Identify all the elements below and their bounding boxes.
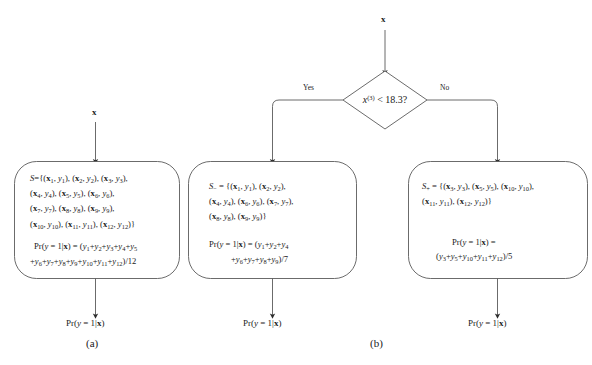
panel-b-right-set-line-1: S+ = {(x3, y3), (x5, y5), (x10, y10), [422,180,534,195]
figure-caption [40,357,560,365]
panel-a-formula-line-1: Pr(y = 1|x) = (y1+y2+y3+y4+y5 [30,240,137,255]
panel-b-right-box-content: S+ = {(x3, y3), (x5, y5), (x10, y10), (x… [422,180,534,265]
panel-b-left-formula-line-2: +y6+y7+y8+y9)/7 [209,253,293,268]
yes-branch-label: Yes [303,84,314,92]
panel-a-formula-line-2: +y6+y7+y8+y9+y10+y11+y12)/12 [30,255,137,270]
decision-superscript: (3) [367,94,374,101]
panel-b-left-set-line-2: (x4, y4), (x6, y6), (x7, y7), [209,195,293,210]
decision-condition-text: x(3) < 18.3? [345,94,425,105]
panel-b-input-label: x [381,15,386,24]
panel-a-set-line-2: (x4, y4), (x5, y5), (x6, y6), [30,187,137,202]
yes-branch-line [273,100,344,162]
no-branch-line [427,100,498,162]
panel-b-right-output-label: Pr(y = 1|x) [468,318,506,328]
panel-b-left-box-content: S− = {(x1, y1), (x2, y2), (x4, y4), (x6,… [209,180,293,268]
decision-question-mark: ? [403,94,407,105]
panel-b-left-set-line-3: (x8, y8), (x9, y9)} [209,210,293,225]
panel-a-set-line-4: (x10, y10), (x11, y11), (x12, y12)} [30,218,137,233]
panel-a-set-line-3: (x7, y7), (x8, y8), (x9, y9), [30,202,137,217]
figure-canvas: x x Yes No x(3) < 18.3? S={(x1, y1), (x2… [0,0,592,365]
no-branch-label: No [440,84,449,92]
panel-a-box-content: S={(x1, y1), (x2, y2), (x3, y3), (x4, y4… [30,172,137,270]
decision-operator: < [377,94,383,105]
panel-a-label: (a) [86,337,98,349]
panel-a-set-line-1: S={(x1, y1), (x2, y2), (x3, y3), [30,172,137,187]
decision-threshold: 18.3 [385,94,403,105]
panel-b-left-set-line-1: S− = {(x1, y1), (x2, y2), [209,180,293,195]
panel-b-right-formula-line-1: Pr(y = 1|x) = [422,236,534,249]
panel-a-input-label: x [92,108,97,117]
panel-b-left-output-label: Pr(y = 1|x) [243,318,281,328]
panel-b-right-set-line-2: (x11, y11), (x12, y12)} [422,195,534,210]
panel-b-left-formula-line-1: Pr(y = 1|x) = (y1+y2+y4 [209,238,293,253]
panel-a-output-label: Pr(y = 1|x) [66,318,104,328]
panel-b-right-formula-line-2: (y3+y5+y10+y11+y12)/5 [422,250,534,265]
panel-b-label: (b) [370,337,383,349]
